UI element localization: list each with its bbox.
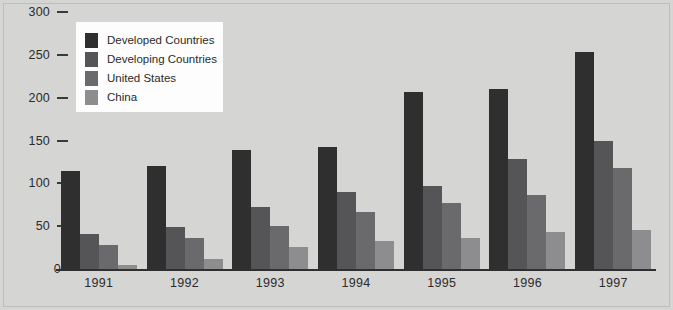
bar[interactable] bbox=[356, 212, 375, 269]
legend-item-label: United States bbox=[107, 71, 176, 86]
bar-group-bars bbox=[570, 12, 656, 269]
bar-group-bars bbox=[399, 12, 485, 269]
bar[interactable] bbox=[613, 168, 632, 269]
legend-swatch-icon bbox=[85, 52, 98, 67]
bar-group bbox=[313, 12, 399, 269]
bar[interactable] bbox=[185, 238, 204, 269]
x-axis-tick-label: 1993 bbox=[227, 275, 313, 291]
bar[interactable] bbox=[318, 147, 337, 270]
bar[interactable] bbox=[575, 52, 594, 269]
bar[interactable] bbox=[404, 92, 423, 269]
bar[interactable] bbox=[80, 234, 99, 269]
bar[interactable] bbox=[147, 166, 166, 269]
bar-group bbox=[227, 12, 313, 269]
y-axis-tick-label: 50 bbox=[36, 219, 50, 233]
x-axis-tick-label: 1991 bbox=[56, 275, 142, 291]
bar-chart: 050100150200250300 Developed CountriesDe… bbox=[0, 0, 673, 310]
legend-item-label: Developing Countries bbox=[107, 52, 217, 67]
legend-item-label: Developed Countries bbox=[107, 33, 214, 48]
bar-group-bars bbox=[227, 12, 313, 269]
bar[interactable] bbox=[508, 159, 527, 270]
bar[interactable] bbox=[423, 186, 442, 269]
bar[interactable] bbox=[461, 238, 480, 269]
bar[interactable] bbox=[375, 241, 394, 269]
legend-swatch-icon bbox=[85, 71, 98, 86]
bar-group-bars bbox=[485, 12, 571, 269]
x-axis-tick-label: 1995 bbox=[399, 275, 485, 291]
bar-group bbox=[399, 12, 485, 269]
axis-baseline bbox=[56, 269, 656, 271]
bar-group bbox=[485, 12, 571, 269]
y-axis-tick-label: 200 bbox=[29, 91, 50, 105]
bar-group bbox=[570, 12, 656, 269]
x-axis-tick-label: 1992 bbox=[142, 275, 228, 291]
legend-item-label: China bbox=[107, 90, 137, 105]
bar[interactable] bbox=[204, 259, 223, 269]
legend-swatch-icon bbox=[85, 90, 98, 105]
bar[interactable] bbox=[270, 226, 289, 269]
chart-legend: Developed CountriesDeveloping CountriesU… bbox=[76, 22, 223, 112]
x-axis-tick-label: 1996 bbox=[485, 275, 571, 291]
bar[interactable] bbox=[632, 230, 651, 269]
bar[interactable] bbox=[489, 89, 508, 269]
bar[interactable] bbox=[251, 207, 270, 269]
y-axis-tick-label: 300 bbox=[29, 5, 50, 19]
bar[interactable] bbox=[289, 247, 308, 269]
bar[interactable] bbox=[442, 203, 461, 269]
y-axis-tick-label: 250 bbox=[29, 48, 50, 62]
bar[interactable] bbox=[527, 195, 546, 269]
bar[interactable] bbox=[232, 150, 251, 269]
bar[interactable] bbox=[337, 192, 356, 269]
legend-swatch-icon bbox=[85, 33, 98, 48]
bar[interactable] bbox=[594, 141, 613, 270]
bar[interactable] bbox=[166, 227, 185, 269]
y-axis-tick-label: 100 bbox=[29, 176, 50, 190]
bar-group-bars bbox=[313, 12, 399, 269]
bar[interactable] bbox=[546, 232, 565, 269]
x-axis-tick-label: 1994 bbox=[313, 275, 399, 291]
x-axis-tick-label: 1997 bbox=[570, 275, 656, 291]
legend-item[interactable]: Developing Countries bbox=[85, 50, 223, 68]
bar[interactable] bbox=[61, 171, 80, 269]
y-axis-tick-label: 150 bbox=[29, 134, 50, 148]
bar[interactable] bbox=[99, 245, 118, 269]
legend-item[interactable]: United States bbox=[85, 69, 223, 87]
legend-item[interactable]: Developed Countries bbox=[85, 31, 223, 49]
legend-item[interactable]: China bbox=[85, 88, 223, 106]
